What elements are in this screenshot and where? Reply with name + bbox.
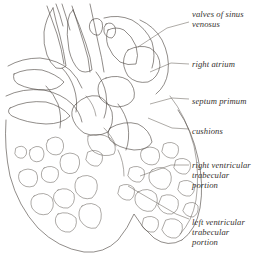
- label-left-ventricular-trabecular-portion: left ventricular trabecular portion: [192, 217, 245, 248]
- label-septum-primum: septum primum: [192, 96, 247, 106]
- label-valves-of-sinus-venosus: valves of sinus venosus: [192, 9, 244, 29]
- label-right-ventricular-trabecular-portion: right ventricular trabecular portion: [192, 160, 251, 191]
- label-right-atrium: right atrium: [192, 59, 235, 69]
- label-column: valves of sinus venosusright atriumseptu…: [0, 0, 275, 271]
- label-cushions: cushions: [192, 126, 223, 136]
